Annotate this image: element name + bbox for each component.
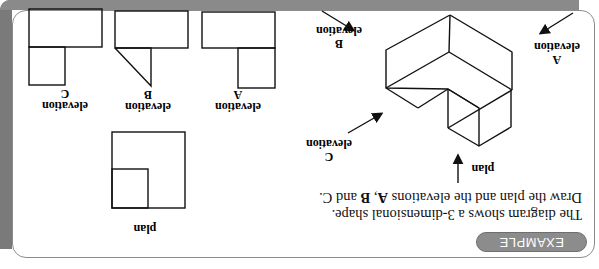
- elevation-a-word: elevation: [215, 100, 261, 114]
- arrow-elevation-a: [541, 13, 573, 33]
- label-c-word: elevation: [306, 137, 352, 151]
- example-page: EXAMPLE The diagram shows a 3-dimensiona…: [0, 0, 599, 269]
- plan-answer-label: plan: [133, 222, 156, 236]
- label-a-word: elevation: [534, 40, 580, 54]
- diagram-canvas: plan A elevation B elevation C elevation…: [0, 0, 599, 269]
- elevation-c-word: elevation: [42, 99, 88, 113]
- elevation-b-word: elevation: [125, 100, 171, 114]
- label-a-letter: A: [552, 53, 561, 67]
- label-c-letter: C: [325, 150, 334, 164]
- label-b-letter: B: [335, 37, 343, 51]
- elevation-b-drawing: [115, 11, 188, 86]
- elevation-a-drawing: [202, 12, 275, 88]
- label-plan: plan: [471, 162, 494, 176]
- arrow-elevation-c: [348, 114, 381, 133]
- label-b-word: elevation: [316, 24, 362, 38]
- plan-drawing: [112, 132, 185, 208]
- solid-3d-shape: [386, 15, 512, 146]
- elevation-c-drawing: [29, 9, 102, 85]
